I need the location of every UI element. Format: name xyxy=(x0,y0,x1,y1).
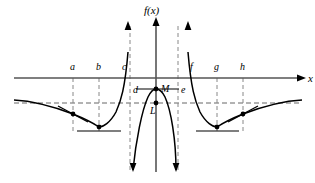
tick-label-g: g xyxy=(214,61,219,72)
x-axis-arrow xyxy=(297,75,306,82)
point-inflection-left xyxy=(71,112,76,117)
curve-arrow-c xyxy=(125,21,132,30)
graph-canvas: abcdefgh ML f(x) x xyxy=(0,0,315,183)
point-label-L: L xyxy=(149,105,156,116)
tick-label-a: a xyxy=(70,61,75,72)
tick-label-b: b xyxy=(96,61,101,72)
curve-arrow-f xyxy=(185,21,192,30)
tick-label-e: e xyxy=(181,84,186,95)
point-label-M: M xyxy=(160,83,170,94)
tick-label-c: c xyxy=(122,61,127,72)
point-maximum-center xyxy=(154,87,159,92)
tangent-segments-group xyxy=(58,89,258,131)
point-minimum-left xyxy=(97,125,102,130)
curve-arrow-d-down xyxy=(130,163,137,172)
curve-right-branch xyxy=(188,52,302,127)
marked-points-group xyxy=(71,87,246,130)
tick-label-h: h xyxy=(240,61,245,72)
point-minimum-right xyxy=(215,125,220,130)
x-axis-label: x xyxy=(307,72,313,84)
y-axis-arrow xyxy=(153,17,160,26)
function-graph-figure: abcdefgh ML f(x) x xyxy=(0,0,315,183)
y-axis-label: f(x) xyxy=(144,4,160,17)
tick-label-f: f xyxy=(190,61,194,72)
vertical-asymptotes-group xyxy=(130,26,178,172)
point-inflection-right xyxy=(241,112,246,117)
